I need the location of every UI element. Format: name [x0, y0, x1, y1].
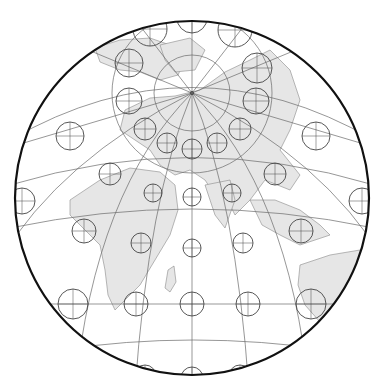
north-pole-marker [191, 92, 194, 95]
map-canvas [0, 0, 384, 391]
tissot-indicatrix [223, 184, 241, 202]
tissot-indicatrix [124, 292, 148, 316]
landmass-india [205, 180, 235, 228]
tissot-indicatrix [242, 53, 272, 83]
tissot-indicatrix [144, 184, 162, 202]
tissot-indicatrix [296, 289, 326, 319]
tissot-indicatrix [99, 163, 121, 185]
tissot-indicatrix [302, 122, 330, 150]
tissot-indicatrix [289, 219, 313, 243]
tissot-indicatrix [183, 188, 201, 206]
tissot-indicatrix [349, 188, 375, 214]
tissot-indicatrix [243, 88, 269, 114]
tissot-indicatrix [58, 289, 88, 319]
tissot-indicatrix [9, 188, 35, 214]
tissot-indicatrix [56, 122, 84, 150]
map-body [0, 0, 384, 391]
tissot-indicatrix [134, 118, 156, 140]
landmass-southeast-asia [250, 200, 330, 245]
tissot-indicatrix [116, 88, 142, 114]
tissot-indicatrix [182, 139, 202, 159]
tissot-indicatrix [183, 239, 201, 257]
tissot-indicatrix [233, 233, 253, 253]
landmass-madagascar [165, 266, 176, 292]
tissot-indicatrix [157, 133, 177, 153]
tissot-indicatrix [177, 3, 207, 33]
landmass-africa [70, 168, 178, 310]
tissot-indicatrix [115, 49, 143, 77]
tissot-indicatrix [264, 163, 286, 185]
tissot-indicatrix [72, 219, 96, 243]
tissot-indicatrix [229, 118, 251, 140]
tissot-indicatrix [236, 292, 260, 316]
tissot-indicatrix [181, 367, 203, 389]
tissot-indicatrix [207, 133, 227, 153]
tissot-indicatrix [131, 233, 151, 253]
landmass-australia [298, 250, 375, 322]
tissot-indicatrix [180, 292, 204, 316]
